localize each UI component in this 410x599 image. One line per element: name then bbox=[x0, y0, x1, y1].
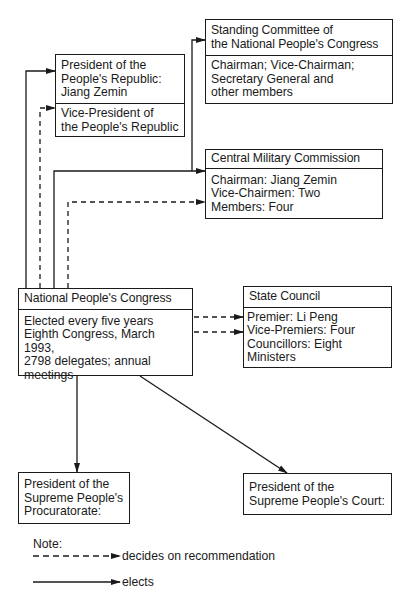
state-council-body: Premier: Li Peng Vice-Premiers: Four Cou… bbox=[244, 308, 391, 367]
cmc-body: Chairman: Jiang Zemin Vice-Chairmen: Two… bbox=[206, 169, 382, 217]
standing-committee-box: Standing Committee of the National Peopl… bbox=[205, 19, 393, 104]
procuratorate-box: President of the Supreme People's Procur… bbox=[18, 472, 130, 524]
npc-body: Elected every five years Eighth Congress… bbox=[19, 310, 192, 385]
elects-standing-committee-arrow bbox=[192, 40, 205, 171]
cmc-title: Central Military Commission bbox=[206, 150, 382, 169]
president-title: President of the People's Republic: Jian… bbox=[56, 55, 184, 104]
decides-vice-president-arrow bbox=[40, 108, 55, 288]
legend-solid-label: elects bbox=[122, 575, 154, 589]
standing-committee-title: Standing Committee of the National Peopl… bbox=[206, 20, 392, 56]
court-box: President of the Supreme People's Court: bbox=[243, 473, 392, 515]
npc-box: National People's Congress Elected every… bbox=[18, 288, 193, 376]
npc-title: National People's Congress bbox=[19, 289, 192, 310]
decides-cmc-arrow bbox=[68, 202, 205, 288]
standing-committee-body: Chairman; Vice-Chairman; Secretary Gener… bbox=[206, 56, 392, 102]
court-title: President of the Supreme People's Court: bbox=[244, 474, 391, 515]
cmc-box: Central Military Commission Chairman: Ji… bbox=[205, 149, 383, 219]
state-council-title: State Council bbox=[244, 287, 391, 308]
procuratorate-title: President of the Supreme People's Procur… bbox=[19, 473, 129, 524]
president-box: President of the People's Republic: Jian… bbox=[55, 54, 185, 137]
legend-title: Note: bbox=[33, 537, 62, 551]
state-council-box: State Council Premier: Li Peng Vice-Prem… bbox=[243, 286, 392, 368]
vice-president-title: Vice-President of the People's Republic bbox=[56, 104, 184, 137]
legend-dashed-label: decides on recommendation bbox=[122, 549, 275, 563]
elects-cmc-arrow bbox=[54, 171, 205, 288]
elects-court-arrow bbox=[140, 376, 287, 473]
